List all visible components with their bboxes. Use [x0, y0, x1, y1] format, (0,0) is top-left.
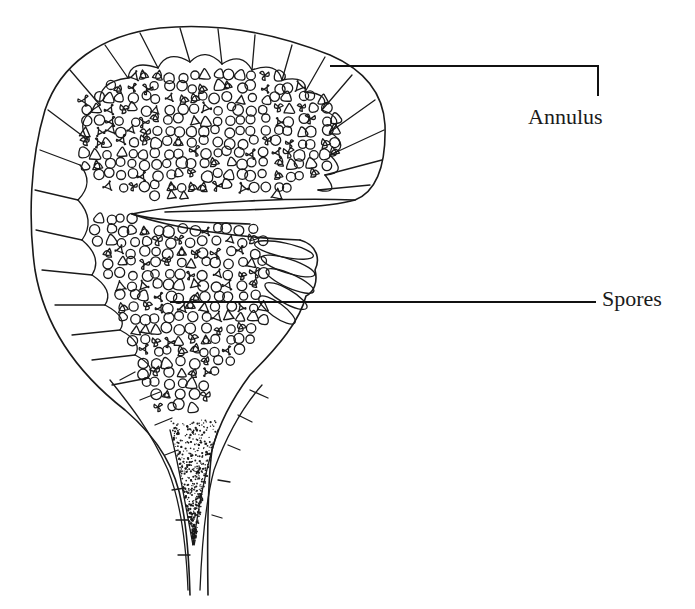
annulus-leader — [330, 66, 598, 96]
sporangium-diagram: Annulus Spores — [0, 0, 695, 609]
label-annulus: Annulus — [528, 104, 603, 130]
label-leaders — [170, 66, 598, 302]
sporangium-illustration — [0, 0, 695, 609]
inner-wall-left — [110, 380, 188, 590]
label-spores: Spores — [602, 286, 662, 312]
